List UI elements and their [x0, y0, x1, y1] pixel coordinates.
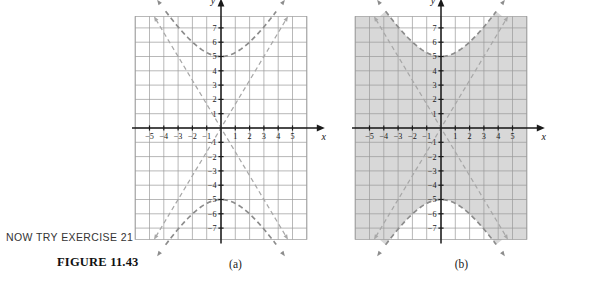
x-tick-label: −4: [379, 132, 388, 141]
y-tick-label: −4: [208, 181, 217, 190]
curve-arrowhead: [500, 251, 505, 256]
coordinate-plane-a: −5−4−3−2−1123457654321−1−2−3−4−5−6−7xy: [132, 0, 347, 258]
x-tick-label: 2: [468, 132, 472, 141]
curve-arrowhead: [377, 0, 382, 5]
asymptote-arrowhead: [154, 16, 158, 22]
x-tick-label: −3: [174, 132, 183, 141]
x-tick-label: 2: [248, 132, 252, 141]
panel-b-caption: (b): [354, 258, 569, 270]
y-tick-label: 3: [432, 81, 436, 90]
now-try-exercise-note: NOW TRY EXERCISE 21: [6, 231, 133, 243]
y-tick-label: 7: [212, 24, 216, 33]
y-tick-label: −1: [208, 138, 217, 147]
x-tick-label: 3: [262, 132, 266, 141]
x-axis-name: x: [541, 131, 547, 142]
asymptote-arrowhead: [284, 16, 288, 22]
curve-arrowhead: [500, 0, 505, 5]
y-tick-label: 2: [212, 95, 216, 104]
asymptote-arrowhead: [154, 234, 158, 240]
graph-a: −5−4−3−2−1123457654321−1−2−3−4−5−6−7xy: [132, 0, 347, 258]
y-tick-label: 4: [432, 67, 436, 76]
curve-arrowhead: [157, 251, 162, 256]
y-tick-label: 5: [212, 52, 216, 61]
x-tick-label: 3: [482, 132, 486, 141]
asymptote-arrowhead: [284, 234, 288, 240]
x-tick-label: 4: [496, 132, 500, 141]
y-tick-label: −6: [428, 210, 437, 219]
coordinate-plane-b: −5−4−3−2−1123457654321−1−2−3−4−5−6−7xy: [352, 0, 567, 258]
curve-arrowhead: [377, 251, 382, 256]
y-axis-name: y: [210, 0, 216, 6]
x-tick-label: −2: [188, 132, 197, 141]
y-tick-label: −3: [428, 167, 437, 176]
y-axis-arrowhead: [218, 0, 225, 6]
y-tick-label: −3: [208, 167, 217, 176]
x-axis-name: x: [321, 131, 327, 142]
y-axis-arrowhead: [438, 0, 445, 6]
y-tick-label: −2: [428, 153, 437, 162]
curve-arrowhead: [280, 0, 285, 5]
x-tick-label: −5: [365, 132, 374, 141]
x-tick-label: 1: [233, 132, 237, 141]
y-tick-label: 6: [432, 38, 436, 47]
x-tick-label: 5: [290, 132, 294, 141]
y-tick-label: −7: [428, 224, 437, 233]
x-tick-label: −4: [159, 132, 168, 141]
x-tick-label: −3: [394, 132, 403, 141]
panel-a-caption: (a): [128, 258, 343, 270]
y-tick-label: 5: [432, 52, 436, 61]
graph-b: −5−4−3−2−1123457654321−1−2−3−4−5−6−7xy: [352, 0, 567, 258]
y-tick-label: −6: [208, 210, 217, 219]
y-tick-label: −7: [208, 224, 217, 233]
y-tick-label: 6: [212, 38, 216, 47]
y-axis-name: y: [430, 0, 436, 6]
y-tick-label: −5: [428, 195, 437, 204]
y-tick-label: 2: [432, 95, 436, 104]
figure-number-label: FIGURE 11.43: [57, 255, 139, 270]
figure-panel-a: −5−4−3−2−1123457654321−1−2−3−4−5−6−7xy (…: [132, 0, 347, 287]
axes: [132, 0, 325, 244]
x-tick-label: 1: [453, 132, 457, 141]
x-tick-label: −5: [145, 132, 154, 141]
y-tick-label: −1: [428, 138, 437, 147]
y-tick-label: 3: [212, 81, 216, 90]
curve-arrowhead: [157, 0, 162, 5]
y-tick-label: 7: [432, 24, 436, 33]
y-tick-label: −4: [428, 181, 437, 190]
figure-panel-b: −5−4−3−2−1123457654321−1−2−3−4−5−6−7xy (…: [352, 0, 567, 287]
x-tick-label: −2: [408, 132, 417, 141]
x-tick-label: 4: [276, 132, 280, 141]
y-tick-label: 1: [212, 110, 216, 119]
y-tick-label: −5: [208, 195, 217, 204]
y-tick-label: 1: [432, 110, 436, 119]
y-tick-label: 4: [212, 67, 216, 76]
curve-arrowhead: [280, 251, 285, 256]
x-tick-label: 5: [510, 132, 514, 141]
y-tick-label: −2: [208, 153, 217, 162]
